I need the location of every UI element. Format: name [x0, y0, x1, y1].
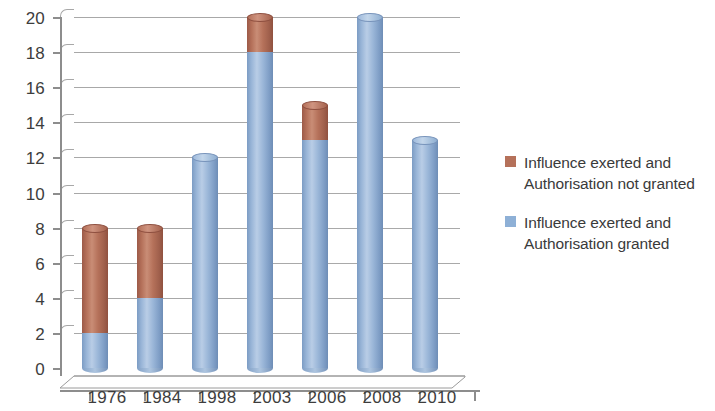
y-axis-tick-label: 14: [26, 114, 45, 134]
bar-segment-not-granted-2003: [247, 17, 273, 52]
bars-layer: [60, 8, 460, 376]
bar-segment-granted-2006: [302, 140, 328, 368]
y-axis-tick-label: 2: [35, 324, 45, 344]
bar-1976: [82, 228, 108, 368]
bar-segment-granted-2008: [357, 17, 383, 368]
bar-segment-not-granted-1984: [137, 228, 163, 298]
y-axis-tick-label: 4: [35, 289, 45, 309]
legend-label-not-granted: Influence exerted and Authorisation not …: [524, 152, 695, 194]
bar-top-cap: [82, 224, 108, 233]
bar-segment-granted-2010: [412, 140, 438, 368]
x-axis-label-2006: 2006: [307, 388, 346, 408]
bar-top-cap: [357, 13, 383, 22]
bar-chart: 02468101214161820 1976198419982003200620…: [0, 0, 715, 411]
bar-segment-not-granted-2006: [302, 105, 328, 140]
segment-body: [192, 157, 218, 368]
x-axis-label-2008: 2008: [362, 388, 401, 408]
segment-body: [247, 52, 273, 368]
bar-segment-not-granted-1976: [82, 228, 108, 333]
bar-1998: [192, 157, 218, 368]
legend: Influence exerted and Authorisation not …: [505, 152, 715, 272]
x-axis-label-1984: 1984: [142, 388, 181, 408]
segment-body: [82, 228, 108, 333]
x-axis-label-1976: 1976: [87, 388, 126, 408]
legend-item-not-granted: Influence exerted and Authorisation not …: [505, 152, 715, 194]
y-axis-tick-label: 16: [26, 79, 45, 99]
segment-body: [82, 333, 108, 368]
y-axis-tick-label: 18: [26, 44, 45, 64]
bar-2003: [247, 17, 273, 368]
bar-top-cap: [412, 136, 438, 145]
bar-segment-granted-1984: [137, 298, 163, 368]
segment-body: [137, 228, 163, 298]
segment-body: [137, 298, 163, 368]
bar-2008: [357, 17, 383, 368]
y-axis-tick-label: 0: [35, 360, 45, 380]
y-axis-tick-label: 12: [26, 149, 45, 169]
bar-2010: [412, 140, 438, 368]
x-axis-label-2003: 2003: [252, 388, 291, 408]
legend-swatch-granted-icon: [505, 216, 516, 227]
segment-body: [302, 105, 328, 140]
bar-segment-granted-2003: [247, 52, 273, 368]
x-axis-labels: 1976198419982003200620082010: [60, 388, 480, 411]
y-axis-tick-label: 20: [26, 9, 45, 29]
bar-top-cap: [247, 13, 273, 22]
bar-top-cap: [137, 224, 163, 233]
legend-label-granted: Influence exerted and Authorisation gran…: [524, 212, 671, 254]
bar-1984: [137, 228, 163, 368]
segment-body: [302, 140, 328, 368]
x-axis-label-2010: 2010: [417, 388, 456, 408]
y-axis-tick-label: 8: [35, 219, 45, 239]
legend-swatch-not-granted-icon: [505, 156, 516, 167]
bar-2006: [302, 105, 328, 368]
y-axis-tick-label: 6: [35, 254, 45, 274]
segment-body: [412, 140, 438, 368]
legend-item-granted: Influence exerted and Authorisation gran…: [505, 212, 715, 254]
x-axis-label-1998: 1998: [197, 388, 236, 408]
bar-segment-granted-1976: [82, 333, 108, 368]
bar-top-cap: [302, 101, 328, 110]
plot-area: 02468101214161820: [60, 8, 460, 376]
segment-body: [247, 17, 273, 52]
segment-body: [357, 17, 383, 368]
bar-segment-granted-1998: [192, 157, 218, 368]
y-axis-tick-label: 10: [26, 184, 45, 204]
